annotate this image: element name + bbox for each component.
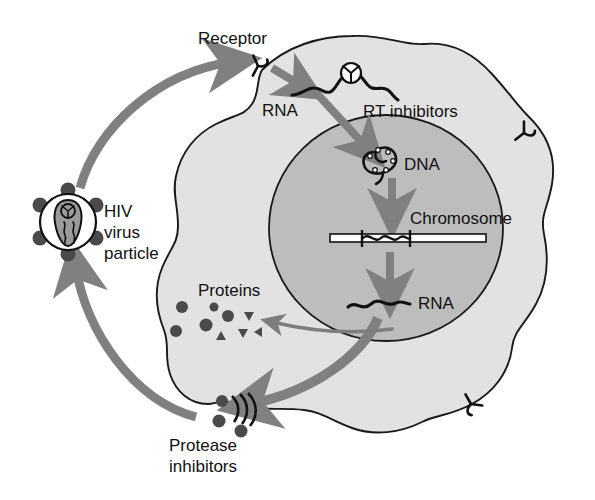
label-hiv-line2: virus [104, 223, 140, 242]
label-rna-nucleus: RNA [418, 294, 455, 313]
protein-circle [200, 319, 213, 332]
hiv-virus-particle [33, 183, 104, 262]
label-proteins: Proteins [198, 281, 260, 300]
label-receptor: Receptor [198, 29, 267, 48]
protein-circle [222, 310, 234, 322]
protein-circle [210, 303, 219, 312]
hiv-replication-diagram: Receptor RNA RT inhibitors DNA Chromosom… [0, 0, 595, 500]
label-protease-line1: Protease [169, 436, 237, 455]
rt-enzyme-icon [341, 63, 361, 83]
label-chromosome: Chromosome [410, 209, 512, 228]
label-dna: DNA [404, 155, 441, 174]
label-hiv-line3: particle [104, 244, 159, 263]
label-rna-cytoplasm: RNA [262, 101, 299, 120]
diagram-canvas: Receptor RNA RT inhibitors DNA Chromosom… [0, 0, 595, 500]
label-protease-line2: inhibitors [169, 457, 237, 476]
label-hiv-line1: HIV [104, 202, 133, 221]
label-rt-inhibitors: RT inhibitors [363, 102, 458, 121]
